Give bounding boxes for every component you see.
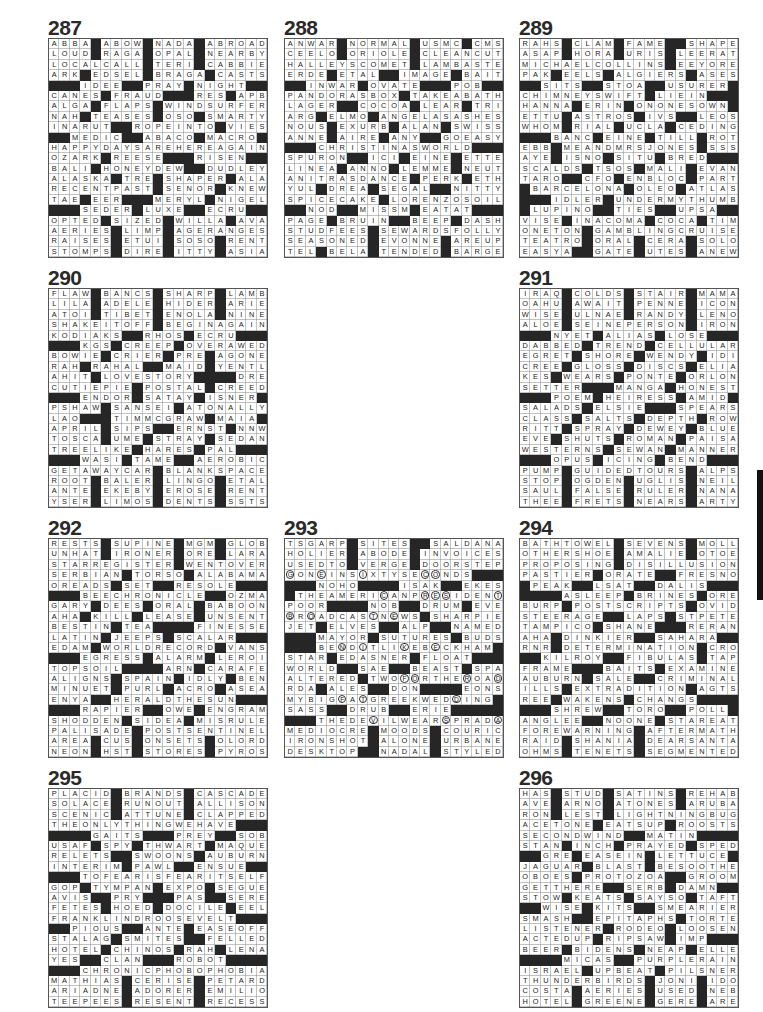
letter-cell: A: [389, 591, 399, 601]
letter-cell: T: [70, 486, 80, 496]
letter-cell: E: [101, 799, 111, 809]
letter-cell: N: [132, 955, 142, 965]
letter-cell: R: [697, 903, 707, 913]
letter-cell: W: [80, 455, 90, 465]
letter-cell: K: [91, 914, 101, 924]
letter-cell: E: [132, 476, 142, 486]
letter-cell: S: [645, 747, 655, 757]
letter-cell: E: [236, 903, 246, 913]
letter-cell: E: [472, 164, 482, 174]
letter-cell: P: [163, 341, 173, 351]
black-square: [676, 799, 686, 809]
letter-cell: G: [582, 476, 592, 486]
letter-cell: S: [215, 434, 225, 444]
black-square: [593, 820, 603, 830]
letter-cell: I: [143, 820, 153, 830]
letter-cell: N: [410, 736, 420, 746]
black-square: [379, 684, 389, 694]
letter-cell: J: [520, 862, 530, 872]
letter-cell: E: [306, 560, 316, 570]
letter-cell: O: [236, 736, 246, 746]
letter-cell: F: [101, 101, 111, 111]
letter-cell: M: [80, 643, 90, 653]
letter-cell: O: [697, 601, 707, 611]
letter-cell: L: [707, 184, 717, 194]
letter-cell: B: [306, 695, 316, 705]
letter-cell: S: [379, 633, 389, 643]
letter-cell: R: [593, 924, 603, 934]
letter-cell: I: [236, 414, 246, 424]
letter-cell: R: [697, 716, 707, 726]
letter-cell: R: [153, 81, 163, 91]
letter-cell: O: [655, 101, 665, 111]
letter-cell: L: [246, 716, 256, 726]
letter-cell: U: [482, 164, 492, 174]
letter-cell: I: [80, 310, 90, 320]
black-square: [451, 70, 461, 80]
letter-cell: I: [624, 331, 634, 341]
black-square: [59, 455, 69, 465]
letter-cell: A: [368, 174, 378, 184]
letter-cell: A: [707, 289, 717, 299]
letter-cell: R: [132, 872, 142, 882]
letter-cell: P: [59, 216, 69, 226]
letter-cell: R: [655, 955, 665, 965]
letter-cell: S: [572, 549, 582, 559]
letter-cell: K: [226, 184, 236, 194]
black-square: [153, 362, 163, 372]
letter-cell: K: [430, 581, 440, 591]
letter-cell: A: [122, 101, 132, 111]
letter-cell: G: [226, 351, 236, 361]
letter-cell: L: [368, 70, 378, 80]
letter-cell: O: [665, 184, 675, 194]
letter-cell: L: [91, 945, 101, 955]
letter-cell: M: [728, 872, 738, 882]
letter-cell: E: [645, 195, 655, 205]
letter-cell: A: [451, 91, 461, 101]
letter-cell: S: [80, 664, 90, 674]
letter-cell: R: [645, 591, 655, 601]
black-square: [645, 674, 655, 684]
black-square: [70, 205, 80, 215]
black-square: [645, 341, 655, 351]
letter-cell: A: [541, 289, 551, 299]
letter-cell: A: [707, 633, 717, 643]
letter-cell: M: [257, 705, 267, 715]
letter-cell: R: [194, 643, 204, 653]
letter-cell: I: [462, 695, 472, 705]
letter-cell: M: [717, 289, 727, 299]
letter-cell: M: [728, 216, 738, 226]
letter-cell: L: [132, 299, 142, 309]
black-square: [184, 789, 194, 799]
letter-cell: P: [603, 914, 613, 924]
letter-cell: A: [49, 736, 59, 746]
letter-cell: L: [645, 184, 655, 194]
letter-cell: R: [205, 226, 215, 236]
letter-cell: E: [337, 247, 347, 257]
letter-cell: D: [676, 351, 686, 361]
letter-cell: I: [676, 810, 686, 820]
letter-cell: D: [163, 695, 173, 705]
letter-cell: U: [205, 612, 215, 622]
letter-cell: W: [593, 705, 603, 715]
letter-cell: A: [410, 747, 420, 757]
letter-cell: R: [91, 862, 101, 872]
black-square: [665, 383, 675, 393]
letter-cell: G: [101, 934, 111, 944]
letter-cell: I: [665, 91, 675, 101]
black-square: [430, 684, 440, 694]
letter-cell: W: [520, 122, 530, 132]
letter-cell: E: [163, 164, 173, 174]
letter-cell: R: [153, 351, 163, 361]
black-square: [593, 664, 603, 674]
letter-cell: A: [226, 49, 236, 59]
letter-cell: E: [441, 705, 451, 715]
letter-cell: E: [226, 883, 236, 893]
black-square: [358, 581, 368, 591]
letter-cell: E: [101, 716, 111, 726]
letter-cell: A: [215, 601, 225, 611]
letter-cell: L: [728, 674, 738, 684]
letter-cell: I: [582, 560, 592, 570]
letter-cell: S: [697, 560, 707, 570]
letter-cell: S: [358, 539, 368, 549]
